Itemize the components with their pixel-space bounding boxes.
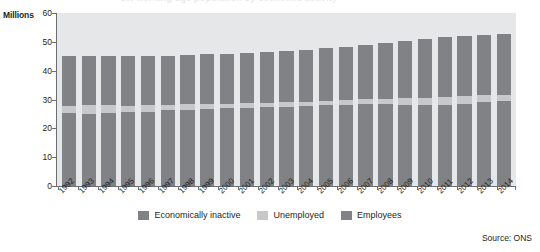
source-note: Source: ONS — [482, 233, 532, 243]
stacked-bar — [378, 43, 392, 186]
bar-segment-economically-inactive — [378, 43, 392, 98]
y-axis-tickmark — [52, 13, 56, 14]
bar-segment-economically-inactive — [141, 56, 155, 105]
y-axis-tick-label: 40 — [26, 66, 52, 76]
stacked-bar — [279, 51, 293, 186]
stacked-bar — [457, 36, 471, 186]
bar-segment-employees — [378, 104, 392, 186]
bar-column — [277, 13, 297, 186]
bar-column — [494, 13, 514, 186]
legend-swatch-employees — [341, 211, 352, 220]
bar-segment-employees — [398, 105, 412, 186]
bar-segment-economically-inactive — [438, 37, 452, 97]
bar-segment-employees — [101, 113, 115, 186]
bar-segment-unemployed — [398, 98, 412, 105]
bar-segment-unemployed — [438, 97, 452, 104]
bar-column — [435, 13, 455, 186]
bar-segment-economically-inactive — [418, 39, 432, 98]
bar-segment-economically-inactive — [279, 51, 293, 103]
stacked-bar — [62, 56, 76, 186]
stacked-bar — [200, 54, 214, 186]
bar-segment-employees — [200, 109, 214, 186]
bar-segment-unemployed — [457, 96, 471, 103]
bar-segment-economically-inactive — [62, 56, 76, 105]
bar-segment-unemployed — [82, 105, 96, 113]
bar-segment-unemployed — [477, 95, 491, 102]
stacked-bar — [438, 37, 452, 186]
bar-segment-employees — [299, 106, 313, 186]
stacked-bar — [477, 35, 491, 186]
legend-swatch-unemployed — [257, 211, 268, 220]
bar-column — [197, 13, 217, 186]
bar-segment-unemployed — [121, 106, 135, 113]
plot-area — [57, 13, 516, 186]
bar-segment-economically-inactive — [477, 35, 491, 95]
bar-column — [316, 13, 336, 186]
bar-column — [376, 13, 396, 186]
bar-column — [455, 13, 475, 186]
legend-label-inactive: Economically inactive — [154, 210, 240, 220]
bar-segment-economically-inactive — [457, 36, 471, 96]
y-axis-tick-label: 30 — [26, 95, 52, 105]
stacked-bar — [418, 39, 432, 186]
bar-column — [217, 13, 237, 186]
y-axis-tick-label: 50 — [26, 37, 52, 47]
bar-segment-economically-inactive — [200, 54, 214, 104]
bar-segment-economically-inactive — [101, 56, 115, 105]
bar-segment-employees — [457, 104, 471, 186]
bar-column — [257, 13, 277, 186]
bar-column — [356, 13, 376, 186]
bar-segment-employees — [438, 105, 452, 186]
bar-segment-employees — [62, 113, 76, 186]
legend-swatch-inactive — [138, 211, 149, 220]
stacked-bar — [319, 48, 333, 186]
bar-segment-employees — [121, 112, 135, 186]
legend-label-employees: Employees — [357, 210, 402, 220]
stacked-bar — [141, 56, 155, 186]
bar-segment-unemployed — [62, 106, 76, 114]
y-axis-tickmark — [52, 128, 56, 129]
bar-segment-employees — [161, 110, 175, 186]
chart-figure: UK working-age population by economic ac… — [0, 0, 540, 252]
y-axis-tickmark — [52, 42, 56, 43]
bar-segment-unemployed — [101, 105, 115, 113]
bar-segment-employees — [319, 105, 333, 186]
legend-item-employees: Employees — [341, 210, 402, 220]
bar-column — [296, 13, 316, 186]
bar-column — [178, 13, 198, 186]
stacked-bar — [339, 47, 353, 186]
stacked-bar — [121, 56, 135, 186]
bar-segment-employees — [358, 104, 372, 186]
stacked-bar — [398, 41, 412, 186]
bar-segment-employees — [180, 110, 194, 186]
y-axis-tick-label: 0 — [26, 181, 52, 191]
bar-segment-employees — [240, 108, 254, 186]
bar-column — [237, 13, 257, 186]
stacked-bar — [497, 34, 511, 186]
bar-column — [474, 13, 494, 186]
stacked-bar — [299, 50, 313, 186]
legend-label-unemployed: Unemployed — [273, 210, 324, 220]
y-axis-tick-label: 20 — [26, 123, 52, 133]
y-axis-tick-label: 60 — [26, 8, 52, 18]
bar-segment-economically-inactive — [260, 52, 274, 103]
stacked-bar — [240, 53, 254, 186]
stacked-bar — [358, 45, 372, 186]
stacked-bar — [220, 54, 234, 186]
y-axis-ticks: 6050403020100 — [26, 0, 52, 200]
y-axis-tickmark — [52, 157, 56, 158]
bar-segment-economically-inactive — [319, 48, 333, 101]
bar-segment-employees — [141, 112, 155, 186]
bar-segment-employees — [339, 105, 353, 186]
bar-segment-economically-inactive — [220, 54, 234, 104]
bar-segment-employees — [497, 101, 511, 186]
bar-column — [118, 13, 138, 186]
stacked-bar — [161, 56, 175, 186]
bar-segment-economically-inactive — [161, 56, 175, 105]
y-axis-tick-label: 10 — [26, 152, 52, 162]
bar-column — [99, 13, 119, 186]
chart-title-text: UK working-age population by economic ac… — [120, 0, 337, 3]
bar-segment-unemployed — [141, 105, 155, 112]
bar-segment-economically-inactive — [240, 53, 254, 103]
bar-segment-employees — [418, 105, 432, 186]
